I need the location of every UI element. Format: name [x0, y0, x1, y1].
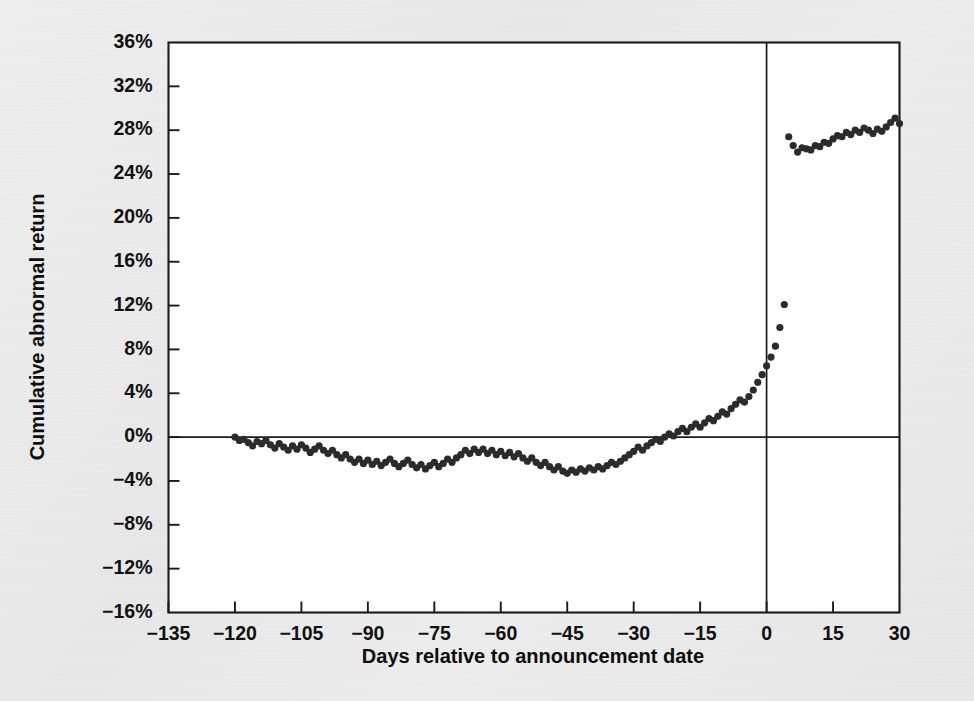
x-axis-tick-label: −135: [147, 622, 191, 644]
y-axis-tick-label: 24%: [113, 161, 152, 183]
data-point: [896, 120, 903, 127]
y-axis-tick-label: 0%: [124, 424, 152, 446]
y-axis-tick-label: 36%: [113, 30, 152, 52]
plot-frame: [169, 43, 900, 613]
x-axis-tick-label: −60: [484, 622, 517, 644]
y-axis-tick-label: 12%: [113, 293, 152, 315]
data-point: [781, 301, 788, 308]
x-axis-tick-label: −45: [551, 622, 584, 644]
x-axis-tick-label: 15: [822, 622, 844, 644]
chart-figure: −16%−12%−8%−4%0%4%8%12%16%20%24%28%32%36…: [0, 0, 974, 701]
x-axis-tick-label: 0: [761, 622, 772, 644]
data-point: [759, 371, 766, 378]
x-axis-tick-labels: −135−120−105−90−75−60−45−30−1501530: [147, 622, 911, 644]
data-point: [745, 393, 752, 400]
x-axis-tick-label: −90: [351, 622, 384, 644]
scatter-chart: −16%−12%−8%−4%0%4%8%12%16%20%24%28%32%36…: [0, 0, 974, 701]
x-axis-tick-label: −75: [418, 622, 451, 644]
x-axis-tick-label: 30: [889, 622, 911, 644]
y-axis-tick-label: 4%: [124, 380, 152, 402]
plot-area: [169, 43, 900, 613]
y-axis-tick-label: 16%: [113, 249, 152, 271]
data-point: [790, 142, 797, 149]
x-axis-tick-label: −120: [213, 622, 257, 644]
data-point: [785, 133, 792, 140]
y-axis-tick-label: 20%: [113, 205, 152, 227]
y-axis-tick-labels: −16%−12%−8%−4%0%4%8%12%16%20%24%28%32%36…: [102, 30, 152, 622]
y-axis-tick-label: −16%: [102, 600, 152, 622]
x-axis-title: Days relative to announcement date: [362, 645, 704, 667]
x-axis-tick-label: −30: [617, 622, 650, 644]
data-point: [767, 354, 774, 361]
x-axis-tick-label: −105: [279, 622, 323, 644]
data-point: [776, 324, 783, 331]
y-axis-tick-label: 8%: [124, 337, 152, 359]
data-point: [750, 386, 757, 393]
y-axis-title: Cumulative abnormal return: [26, 194, 48, 461]
y-axis-tick-label: −12%: [102, 556, 152, 578]
y-axis-tick-label: −8%: [113, 512, 153, 534]
y-axis-tick-label: 28%: [113, 117, 152, 139]
data-point: [772, 343, 779, 350]
y-axis-tick-label: −4%: [113, 468, 153, 490]
y-axis-tick-label: 32%: [113, 74, 152, 96]
data-point: [763, 362, 770, 369]
data-point: [754, 379, 761, 386]
x-axis-tick-label: −15: [684, 622, 717, 644]
